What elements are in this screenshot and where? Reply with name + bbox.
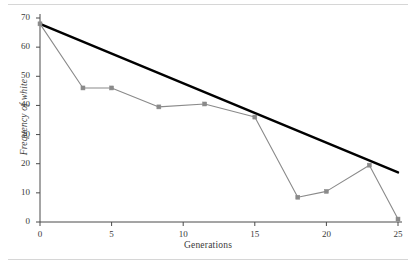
- tick-marks: [36, 18, 398, 226]
- y-axis-title: Frequency of white: [19, 57, 29, 177]
- y-tick-label: 60: [10, 41, 30, 51]
- trend-line: [40, 24, 398, 173]
- y-tick-label: 70: [10, 12, 30, 22]
- x-tick-label: 0: [28, 229, 52, 239]
- data-series-line: [40, 24, 398, 219]
- x-tick-label: 5: [100, 229, 124, 239]
- x-tick-label: 20: [314, 229, 338, 239]
- chart-plot-area: [0, 0, 416, 267]
- y-tick-label: 0: [10, 216, 30, 226]
- x-tick-label: 15: [243, 229, 267, 239]
- x-axis-title: Generations: [0, 240, 416, 250]
- figure-container: 0102030405060700510152025 Frequency of w…: [0, 0, 416, 267]
- data-series-markers: [38, 22, 400, 221]
- x-tick-label: 25: [386, 229, 410, 239]
- y-tick-label: 10: [10, 187, 30, 197]
- x-tick-label: 10: [171, 229, 195, 239]
